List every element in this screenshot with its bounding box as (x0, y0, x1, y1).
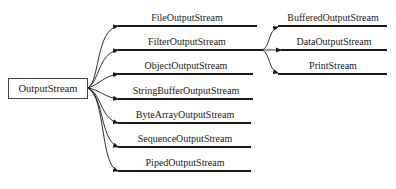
node-stringbufferoutputstream: StringBufferOutputStream (118, 85, 254, 96)
child-underlines (118, 26, 262, 171)
node-pipedoutputstream: PipedOutputStream (118, 157, 252, 168)
node-filteroutputstream: FilterOutputStream (118, 36, 256, 47)
node-printstream: PrintStream (278, 60, 388, 71)
node-fileoutputstream: FileOutputStream (118, 12, 256, 23)
figure-caption-faint (140, 176, 260, 186)
root-branch-curves (88, 26, 118, 171)
node-sequenceoutputstream: SequenceOutputStream (118, 133, 252, 144)
root-node-label: OutputStream (19, 83, 78, 94)
root-node-outputstream: OutputStream (8, 78, 88, 99)
node-objectoutputstream: ObjectOutputStream (118, 60, 254, 71)
node-dataoutputstream: DataOutputStream (281, 36, 387, 47)
node-bytearrayoutputstream: ByteArrayOutputStream (118, 109, 252, 120)
node-bufferedoutputstream: BufferedOutputStream (278, 12, 388, 23)
